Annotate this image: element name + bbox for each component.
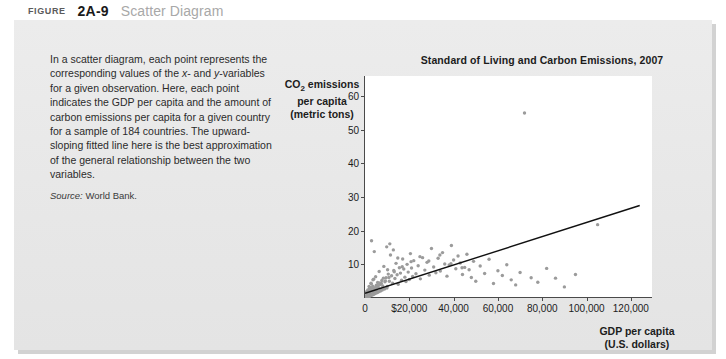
x-axis-tick-label: $20,000 xyxy=(391,303,427,314)
scatter-point xyxy=(374,275,377,278)
x-axis-tick-mark xyxy=(587,297,588,301)
scatter-point xyxy=(403,275,406,278)
scatter-point xyxy=(410,266,413,269)
scatter-point xyxy=(443,262,446,265)
scatter-point xyxy=(563,285,566,288)
figure-title: Scatter Diagram xyxy=(121,3,224,19)
scatter-point xyxy=(450,244,453,247)
plot-outer: 1020304050600$20,00040,00060,00080,00010… xyxy=(364,76,652,298)
scatter-point xyxy=(510,278,513,281)
figure-root: FIGURE 2A-9 Scatter Diagram In a scatter… xyxy=(0,0,726,359)
x-axis-tick-mark xyxy=(498,297,499,301)
scatter-point xyxy=(393,277,396,280)
scatter-point xyxy=(472,260,475,263)
scatter-point xyxy=(460,266,463,269)
scatter-point xyxy=(452,258,455,261)
scatter-point xyxy=(501,274,504,277)
scatter-point xyxy=(387,276,390,279)
figure-word-label: FIGURE xyxy=(28,6,66,16)
scatter-point xyxy=(432,265,435,268)
scatter-point xyxy=(474,279,477,282)
y-axis-tick-label: 60 xyxy=(348,91,359,102)
scatter-point xyxy=(487,258,490,261)
scatter-point xyxy=(545,267,548,270)
scatter-point xyxy=(454,267,457,270)
y-axis-tick-mark xyxy=(361,130,365,131)
scatter-point xyxy=(574,273,577,276)
caption-block: In a scatter diagram, each point represe… xyxy=(50,52,272,203)
scatter-point xyxy=(409,252,412,255)
scatter-point xyxy=(523,111,526,114)
scatter-point xyxy=(418,255,421,258)
scatter-point xyxy=(388,242,391,245)
scatter-point xyxy=(374,286,377,289)
scatter-point xyxy=(395,273,398,276)
source-label: Source: xyxy=(50,190,83,201)
scatter-point xyxy=(396,256,399,259)
scatter-point xyxy=(438,253,441,256)
y-axis-tick-label: 10 xyxy=(348,259,359,270)
plot-area: 1020304050600$20,00040,00060,00080,00010… xyxy=(364,76,652,298)
y-axis-tick-mark xyxy=(361,163,365,164)
caption-paragraph: In a scatter diagram, each point represe… xyxy=(50,52,272,182)
caption-var-x: x xyxy=(182,67,187,79)
scatter-point xyxy=(470,276,473,279)
scatter-point xyxy=(428,273,431,276)
scatter-point xyxy=(384,279,387,282)
scatter-point xyxy=(405,263,408,266)
y-axis-tick-mark xyxy=(361,264,365,265)
y-axis-tick-label: 30 xyxy=(348,192,359,203)
y-axis-tick-label: 20 xyxy=(348,225,359,236)
scatter-point xyxy=(514,283,517,286)
scatter-point xyxy=(465,253,468,256)
scatter-point xyxy=(483,272,486,275)
x-axis-tick-label: 0 xyxy=(362,303,368,314)
figure-number: 2A-9 xyxy=(75,3,112,19)
scatter-point xyxy=(401,257,404,260)
scatter-point xyxy=(382,265,385,268)
figure-header: FIGURE 2A-9 Scatter Diagram xyxy=(0,0,726,22)
scatter-point xyxy=(436,257,439,260)
scatter-point xyxy=(479,264,482,267)
caption-source: Source: World Bank. xyxy=(50,189,272,203)
scatter-point xyxy=(377,270,380,273)
scatter-point xyxy=(430,247,433,250)
scatter-point xyxy=(407,270,410,273)
y-axis-label: CO2 emissions per capita (metric tons) xyxy=(268,78,376,121)
y-axis-tick-mark xyxy=(361,231,365,232)
x-axis-tick-label: 80,000 xyxy=(527,303,558,314)
scatter-point xyxy=(518,271,521,274)
scatter-point xyxy=(378,281,381,284)
scatter-points xyxy=(365,111,599,298)
scatter-point xyxy=(505,263,508,266)
y-axis-tick-mark xyxy=(361,197,365,198)
chart-container: Standard of Living and Carbon Emissions,… xyxy=(272,48,724,359)
scatter-point xyxy=(423,268,426,271)
y-axis-tick-mark xyxy=(361,96,365,97)
scatter-point xyxy=(385,245,388,248)
y-axis-label-emissions: emissions xyxy=(305,78,359,90)
scatter-point xyxy=(392,248,395,251)
scatter-point xyxy=(596,223,599,226)
scatter-point xyxy=(445,274,448,277)
scatter-point xyxy=(369,282,372,285)
x-axis-tick-label: 40,000 xyxy=(438,303,469,314)
x-axis-tick-mark xyxy=(454,297,455,301)
scatter-point xyxy=(467,268,470,271)
x-axis-tick-mark xyxy=(631,297,632,301)
scatter-point xyxy=(414,272,417,275)
x-axis-label: GDP per capita (U.S. dollars) xyxy=(562,325,712,351)
source-value: World Bank. xyxy=(83,190,137,201)
caption-var-y: y xyxy=(214,67,219,79)
x-axis-tick-label: 120,000 xyxy=(613,303,649,314)
scatter-point xyxy=(416,264,419,267)
x-axis-label-line2: (U.S. dollars) xyxy=(562,338,712,351)
y-axis-tick-label: 40 xyxy=(348,158,359,169)
scatter-point xyxy=(389,253,392,256)
x-axis-tick-mark xyxy=(409,297,410,301)
chart-title: Standard of Living and Carbon Emissions,… xyxy=(392,54,692,66)
scatter-point xyxy=(409,260,412,263)
y-axis-label-line2: per capita xyxy=(268,95,376,108)
scatter-point xyxy=(371,278,374,281)
scatter-point xyxy=(427,259,430,262)
